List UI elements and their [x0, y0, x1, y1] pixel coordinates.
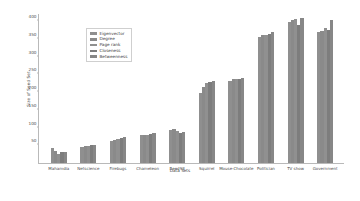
- bar: [241, 78, 244, 163]
- bar-group: Mahamdia: [51, 14, 67, 163]
- legend-swatch-icon: [90, 55, 97, 58]
- legend-item-label: Page rank: [100, 43, 121, 47]
- legend-item: Page rank: [90, 43, 127, 47]
- legend-item: Betweenness: [90, 55, 127, 59]
- y-axis-tick-label: 50: [31, 138, 39, 143]
- bar: [330, 20, 333, 163]
- chart-figure: Size of Seed Set 50100150200250300350400…: [0, 0, 360, 201]
- y-axis-tick-label: 400: [29, 14, 40, 19]
- legend-item-label: Closeness: [100, 49, 121, 53]
- plot-area: Size of Seed Set 50100150200250300350400…: [38, 14, 344, 164]
- y-axis-tick-label: 200: [29, 85, 40, 90]
- bar-group: Squirrel: [199, 14, 215, 163]
- chart-legend: EigenvectorDegreePage rankClosenessBetwe…: [86, 28, 132, 62]
- bar-group: Mouse-Chocolate: [228, 14, 244, 163]
- legend-item: Degree: [90, 37, 127, 41]
- bar-groups: MahamdiaNetscienceFirebugsChameleonReed9…: [39, 14, 344, 163]
- bar-group: TV show: [288, 14, 304, 163]
- bar: [300, 18, 303, 163]
- legend-swatch-icon: [90, 44, 97, 47]
- y-axis-tick-label: 250: [29, 67, 40, 72]
- bar: [152, 133, 155, 163]
- legend-swatch-icon: [90, 32, 97, 35]
- bar: [212, 81, 215, 163]
- y-axis-tick-label: 100: [29, 120, 40, 125]
- legend-item-label: Eigenvector: [100, 32, 125, 36]
- legend-swatch-icon: [90, 38, 97, 41]
- bar: [271, 32, 274, 163]
- bar-group: Chameleon: [140, 14, 156, 163]
- bar: [123, 137, 126, 163]
- bar-group: Politician: [258, 14, 274, 163]
- legend-item: Closeness: [90, 49, 127, 53]
- bar: [93, 145, 96, 163]
- legend-item-label: Degree: [100, 37, 115, 41]
- x-axis-label: Data Sets: [0, 168, 360, 173]
- bar-group: Reed98: [169, 14, 185, 163]
- bar: [64, 152, 67, 163]
- y-axis-tick-label: 350: [29, 31, 40, 36]
- y-axis-tick-label: 150: [29, 102, 40, 107]
- legend-swatch-icon: [90, 50, 97, 53]
- bar-group: Government: [317, 14, 333, 163]
- y-axis-tick-label: 300: [29, 49, 40, 54]
- bar: [182, 132, 185, 163]
- legend-item-label: Betweenness: [100, 55, 128, 59]
- legend-item: Eigenvector: [90, 32, 127, 36]
